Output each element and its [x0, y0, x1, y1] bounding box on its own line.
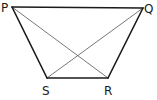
trapezium-diagram: P Q S R	[0, 0, 157, 100]
side-sp	[12, 7, 47, 78]
vertex-label-p: P	[1, 1, 8, 15]
side-qr	[108, 8, 143, 78]
vertex-label-r: R	[104, 84, 112, 98]
side-pq	[12, 7, 143, 8]
vertex-label-s: S	[42, 84, 50, 98]
diagonal-pr	[12, 7, 108, 78]
vertex-label-q: Q	[144, 2, 153, 16]
diagonal-qs	[47, 8, 143, 78]
